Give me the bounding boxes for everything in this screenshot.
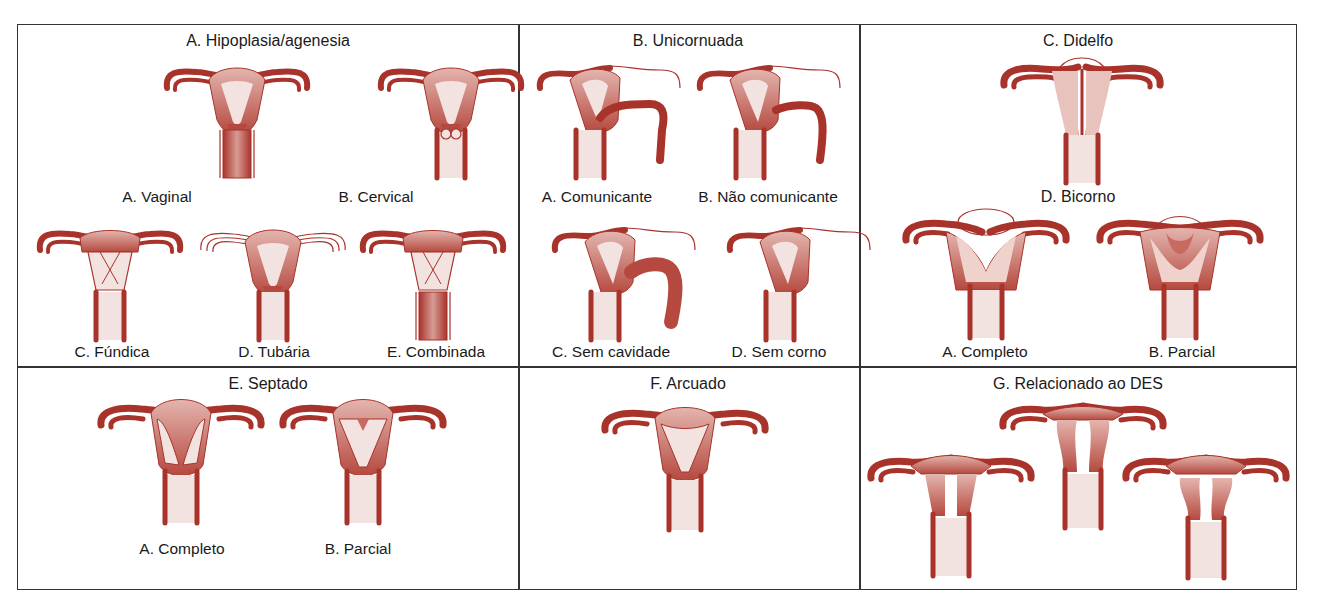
panel-title: C. Didelfo [1043, 32, 1113, 50]
panel-title: G. Relacionado ao DES [993, 375, 1163, 393]
uterus-arcuado-illustration [600, 400, 770, 535]
item-label: A. Completo [942, 343, 1027, 361]
uterus-bicorno-completo-illustration [901, 210, 1071, 340]
uterus-sem-cavidade-illustration [545, 222, 705, 347]
divider [17, 366, 1297, 368]
item-label: B. Parcial [1149, 343, 1215, 361]
panel-title: B. Unicornuada [633, 32, 743, 50]
item-label: C. Sem cavidade [552, 343, 670, 361]
uterus-didelfo-illustration [1002, 55, 1162, 185]
uterus-bicorno-parcial-illustration [1095, 210, 1265, 340]
uterus-nao-comunicante-illustration [690, 60, 850, 185]
uterus-des-right-illustration [1121, 448, 1291, 588]
item-label: E. Combinada [387, 343, 485, 361]
uterus-cervical-illustration [376, 60, 526, 180]
item-label: A. Comunicante [542, 188, 652, 206]
uterus-tubaria-illustration [198, 222, 348, 342]
uterus-septado-parcial-illustration [278, 395, 448, 530]
uterus-sem-corno-illustration [720, 222, 880, 347]
item-label: B. Parcial [325, 540, 391, 558]
item-label: A. Vaginal [122, 188, 192, 206]
item-label: B. Cervical [339, 188, 414, 206]
uterus-combinada-illustration [358, 222, 508, 342]
panel-title: F. Arcuado [650, 375, 726, 393]
item-label: B. Não comunicante [698, 188, 838, 206]
uterus-des-left-illustration [866, 448, 1036, 588]
panel-title: E. Septado [228, 375, 307, 393]
panel-title: A. Hipoplasia/agenesia [186, 32, 350, 50]
item-label: D. Tubária [238, 343, 310, 361]
item-label: D. Sem corno [732, 343, 827, 361]
item-label: A. Completo [139, 540, 224, 558]
item-label: C. Fúndica [75, 343, 150, 361]
uterus-fundica-illustration [35, 222, 185, 342]
uterus-vaginal-illustration [162, 60, 312, 180]
uterus-comunicante-illustration [530, 60, 690, 185]
panel-subtitle: D. Bicorno [1041, 188, 1116, 206]
uterus-septado-completo-illustration [96, 395, 266, 530]
